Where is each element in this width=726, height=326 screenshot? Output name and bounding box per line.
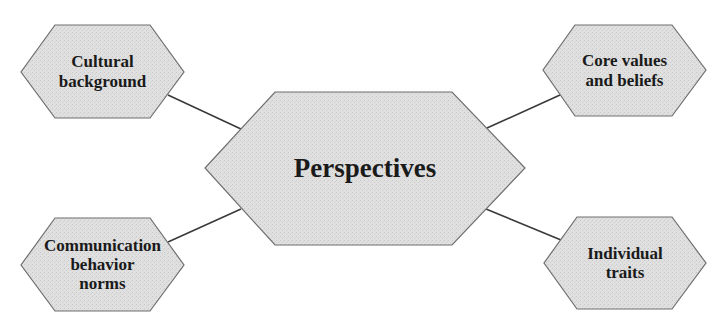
node-line: norms [79, 274, 125, 293]
node-line: Communication [44, 236, 161, 255]
node-line: Core values [582, 51, 667, 70]
node-label-bottom-right: Individual traits [544, 217, 706, 309]
node-line: Individual [587, 244, 663, 263]
node-line: Cultural [71, 52, 133, 71]
center-label: Perspectives [205, 92, 525, 245]
node-line: traits [606, 263, 645, 282]
node-line: and beliefs [586, 71, 664, 90]
node-label-bottom-left: Communication behavior norms [21, 218, 184, 311]
node-label-top-right: Core values and beliefs [543, 25, 706, 116]
node-line: behavior [70, 255, 134, 274]
center-label-text: Perspectives [294, 153, 436, 183]
node-label-top-left: Cultural background [21, 25, 184, 118]
node-line: background [59, 72, 147, 91]
